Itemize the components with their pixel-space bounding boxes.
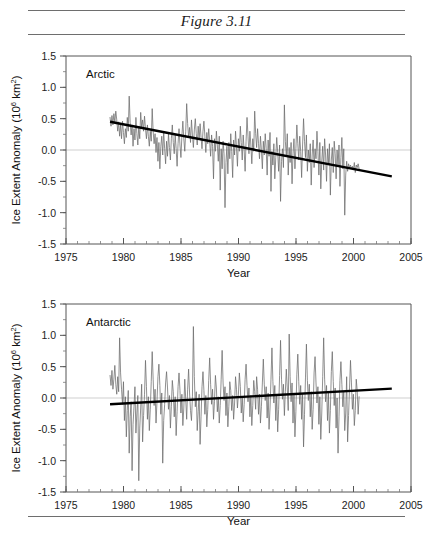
x-tick-label: 1990 — [227, 499, 251, 511]
x-tick-label: 1985 — [169, 251, 193, 263]
y-axis-title: Ice Extent Anomaly (106 km2) — [9, 75, 22, 224]
x-tick-label: 1985 — [169, 499, 193, 511]
x-tick-label: 1980 — [112, 251, 136, 263]
x-tick-label: 1980 — [112, 499, 136, 511]
y-tick-label: 1.0 — [41, 81, 56, 93]
plot-panel-arctic: 19751980198519901995200020051.51.00.50.0… — [0, 40, 433, 280]
y-axis-title: Ice Extent Anomaly (106 km2) — [9, 323, 22, 472]
arctic-chart-svg: 19751980198519901995200020051.51.00.50.0… — [0, 40, 433, 280]
x-tick-label: 1995 — [284, 499, 308, 511]
x-tick-label: 1995 — [284, 251, 308, 263]
y-tick-label: -0.5 — [38, 423, 56, 435]
y-tick-label: -1.0 — [38, 455, 56, 467]
x-tick-label: 1990 — [227, 251, 251, 263]
data-series-line — [110, 96, 359, 215]
x-tick-label: 1975 — [54, 499, 78, 511]
y-tick-label: 1.5 — [41, 298, 56, 310]
y-tick-label: 0.5 — [41, 113, 56, 125]
x-tick-label: 2005 — [399, 251, 423, 263]
y-tick-label: -1.5 — [38, 238, 56, 250]
figure-page: Figure 3.11 1975198019851990199520002005… — [0, 0, 433, 534]
plot-panel-antarctic: 19751980198519901995200020051.51.00.50.0… — [0, 288, 433, 528]
y-tick-label: -1.5 — [38, 486, 56, 498]
y-tick-label: -0.5 — [38, 175, 56, 187]
x-tick-label: 1975 — [54, 251, 78, 263]
rule-bottom — [28, 516, 405, 517]
figure-title: Figure 3.11 — [0, 13, 433, 30]
panel-label: Antarctic — [86, 316, 131, 328]
y-tick-label: 0.0 — [41, 144, 56, 156]
y-tick-label: 0.0 — [41, 392, 56, 404]
y-tick-label: 1.0 — [41, 329, 56, 341]
y-tick-label: 0.5 — [41, 361, 56, 373]
rule-top — [28, 10, 405, 11]
y-tick-label: -1.0 — [38, 207, 56, 219]
x-axis-title: Year — [227, 267, 250, 279]
x-tick-label: 2000 — [342, 251, 366, 263]
x-tick-label: 2000 — [342, 499, 366, 511]
x-tick-label: 2005 — [399, 499, 423, 511]
rule-middle — [28, 34, 405, 35]
panel-label: Arctic — [86, 68, 115, 80]
data-series-line — [110, 327, 359, 481]
trend-line — [110, 122, 392, 177]
y-tick-label: 1.5 — [41, 50, 56, 62]
antarctic-chart-svg: 19751980198519901995200020051.51.00.50.0… — [0, 288, 433, 528]
